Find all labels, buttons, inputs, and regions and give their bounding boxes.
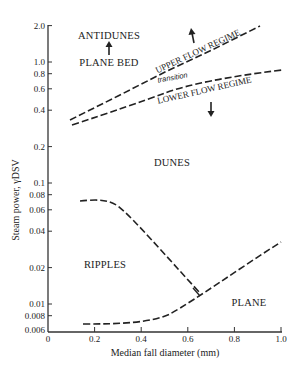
bedform-chart: 2.0 1.0 0.8 0.6 0.4 0.2 0.1 0.08 0.06 0.… <box>0 0 301 368</box>
y-tick-label: 0.08 <box>29 190 45 200</box>
arrow-down-icon <box>208 102 215 117</box>
y-tick-label: 0.04 <box>29 226 45 236</box>
x-tick-label: 1.0 <box>275 334 287 344</box>
y-tick-label: 2.0 <box>34 21 46 31</box>
y-tick-label: 0.06 <box>29 205 45 215</box>
arrow-up-icon <box>189 28 196 43</box>
x-tick-label: 0.8 <box>229 334 241 344</box>
region-label-antidunes: ANTIDUNES <box>78 30 140 41</box>
y-tick-label: 1.0 <box>34 57 46 67</box>
region-label-plane-bed: PLANE BED <box>79 57 138 68</box>
x-tick-label: 0.4 <box>136 334 148 344</box>
y-tick-label: 0.1 <box>34 178 45 188</box>
y-tick-label: 0.6 <box>34 84 46 94</box>
y-tick-label: 0.02 <box>29 263 45 273</box>
y-tick-label: 0.8 <box>34 69 46 79</box>
upper-flow-regime-label: UPPER FLOW REGIME <box>154 27 242 75</box>
y-tick-label: 0.2 <box>34 142 45 152</box>
x-tick-label: 0.6 <box>182 334 194 344</box>
y-tick-label: 0.01 <box>29 299 45 309</box>
region-label-plane: PLANE <box>232 297 267 308</box>
x-axis-label: Median fall diameter (mm) <box>111 347 220 359</box>
region-label-dunes: DUNES <box>154 157 190 168</box>
x-tick-label: 0 <box>46 334 51 344</box>
y-tick-label: 0.008 <box>25 311 46 321</box>
boundary-curves <box>70 26 282 324</box>
ripples-dunes-boundary <box>80 200 200 293</box>
plane-boundary <box>83 242 281 324</box>
y-axis-label: Steam power, γDSV <box>10 158 21 240</box>
region-label-ripples: RIPPLES <box>84 259 126 270</box>
y-tick-label: 0.006 <box>25 325 46 335</box>
arrow-up-icon <box>106 41 113 55</box>
y-tick-label: 0.4 <box>34 105 46 115</box>
x-tick-label: 0.2 <box>89 334 100 344</box>
x-ticks: 0 0.2 0.4 0.6 0.8 1.0 <box>46 327 287 344</box>
